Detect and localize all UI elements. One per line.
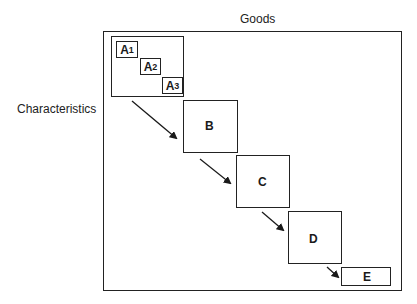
arrow-C-to-D [262,212,283,230]
arrow-D-to-E [327,267,338,277]
arrow-A-to-B [132,101,176,138]
arrows-layer [0,0,417,304]
arrow-B-to-C [200,159,230,183]
